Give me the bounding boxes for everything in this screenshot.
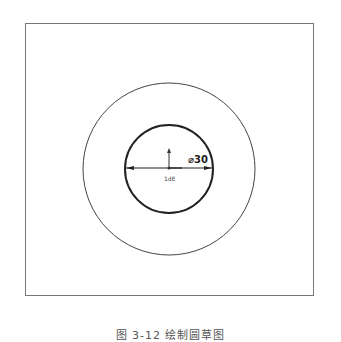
dimension-text[interactable]: ⌀30 [188,154,208,165]
arrowhead-right-icon [204,166,212,170]
figure-caption: 图 3-12 绘制圆草图 [0,326,341,342]
origin-marker: 1dE [164,148,182,182]
origin-point-icon [168,167,171,170]
origin-label: 1dE [164,175,176,182]
axis-y-arrow-icon [167,148,171,153]
arrowhead-left-icon [126,166,134,170]
